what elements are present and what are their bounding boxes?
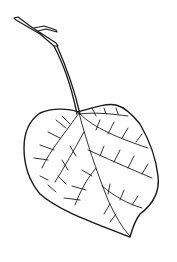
stem [54, 46, 80, 114]
leaf-drawing [0, 0, 177, 262]
leaf-outline [24, 105, 158, 237]
twig [14, 17, 58, 46]
leaf-veins [34, 108, 152, 236]
